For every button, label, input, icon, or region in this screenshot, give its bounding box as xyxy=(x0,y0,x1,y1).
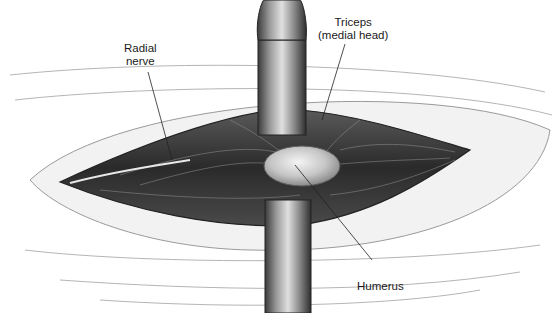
surgical-illustration: Radial nerve Triceps (medial head) Humer… xyxy=(0,0,557,313)
humerus-bone xyxy=(264,146,340,186)
lower-retractor xyxy=(265,200,311,313)
label-triceps-medial-head: Triceps (medial head) xyxy=(318,16,388,42)
label-humerus: Humerus xyxy=(357,280,404,293)
upper-retractor xyxy=(257,0,306,135)
label-radial-nerve: Radial nerve xyxy=(124,42,157,68)
incision-drawing xyxy=(0,0,557,313)
